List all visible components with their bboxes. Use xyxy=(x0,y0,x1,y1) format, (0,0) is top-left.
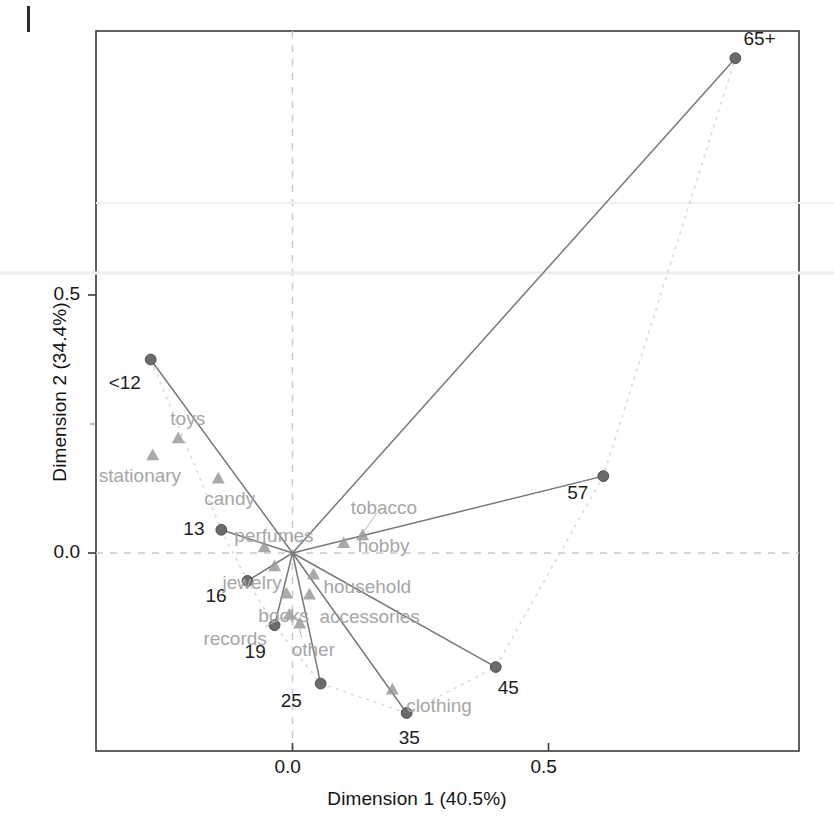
category-label-accessories: accessories xyxy=(319,606,419,628)
origin-rays xyxy=(151,58,736,713)
x-tick-label: 0.5 xyxy=(531,756,557,778)
age-group-label-13: 13 xyxy=(183,518,204,540)
age-group-label-57: 57 xyxy=(567,482,588,504)
category-label-hobby: hobby xyxy=(358,535,410,557)
category-label-toys: toys xyxy=(170,408,205,430)
x-tick-label: 0.0 xyxy=(275,756,301,778)
plot-frame xyxy=(96,31,799,751)
category-label-perfumes: perfumes xyxy=(234,525,313,547)
category-label-stationary: stationary xyxy=(99,465,181,487)
category-markers xyxy=(146,431,399,694)
category-label-candy: candy xyxy=(204,488,255,510)
age-group-label-12: <12 xyxy=(109,372,141,394)
category-label-books: books xyxy=(258,605,309,627)
age-group-label-45: 45 xyxy=(498,677,519,699)
age-group-label-65: 65+ xyxy=(743,28,775,50)
x-axis-title: Dimension 1 (40.5%) xyxy=(0,788,834,810)
category-label-jewelry: jewelry xyxy=(223,572,282,594)
category-label-other: other xyxy=(292,639,335,661)
category-label-clothing: clothing xyxy=(406,695,472,717)
category-label-tobacco: tobacco xyxy=(351,497,418,519)
scan-artifact-lines xyxy=(0,203,834,273)
age-group-label-35: 35 xyxy=(399,727,420,749)
figure-root: <121316192535455765+toysstationarycandyp… xyxy=(0,0,834,839)
category-label-records: records xyxy=(203,628,266,650)
y-axis-title: Dimension 2 (34.4%) xyxy=(49,152,71,632)
category-label-household: household xyxy=(323,576,411,598)
reference-lines xyxy=(96,31,799,751)
age-group-label-25: 25 xyxy=(281,690,302,712)
